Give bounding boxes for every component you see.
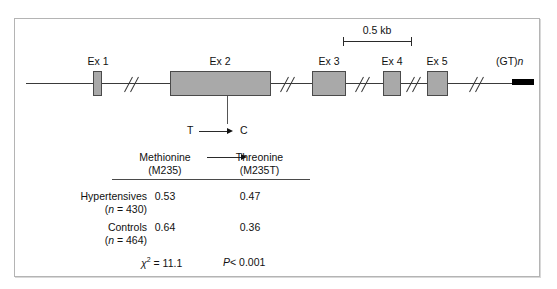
intron-break-icon-3	[354, 74, 372, 94]
mutation-stem-line	[227, 96, 228, 124]
table-row-2-count-post: = 464)	[114, 234, 147, 246]
mutation-arrowhead-icon	[227, 128, 233, 134]
exon-label-3: Ex 3	[304, 55, 354, 67]
gene-backbone-segment-1	[26, 83, 93, 84]
exon-box-1	[93, 71, 102, 96]
mutation-to-base: C	[240, 124, 248, 136]
mutation-from-base: T	[187, 124, 193, 136]
exon-label-4: Ex 4	[367, 55, 417, 67]
table-header-col1-line2: (M235)	[128, 164, 202, 176]
table-row-1-count-post: = 430)	[114, 203, 147, 215]
exon-box-4	[383, 71, 401, 96]
p-value-stat: P< 0.001	[223, 256, 265, 268]
gt-repeat-bar	[512, 79, 534, 85]
table-row-1-value-2: 0.47	[219, 190, 281, 202]
chi-value: = 11.1	[151, 257, 183, 269]
table-row-2-value-2: 0.36	[219, 221, 281, 233]
table-row-1-label: Hypertensives	[45, 190, 147, 202]
table-header-col2-line1: Threonine	[212, 151, 307, 163]
intron-break-icon-5	[468, 74, 486, 94]
gt-repeat-label-main: (GT)	[496, 55, 518, 67]
mutation-arrow-line	[199, 131, 228, 132]
table-header-rule	[112, 179, 310, 180]
exon-label-5: Ex 5	[412, 55, 462, 67]
intron-break-icon-4	[405, 74, 423, 94]
table-row-1-count: (n = 430)	[45, 203, 147, 215]
scale-bar-cap-right	[411, 37, 412, 46]
table-row-2-label: Controls	[45, 221, 147, 233]
table-header-col1-line1: Methionine	[128, 151, 202, 163]
p-value: < 0.001	[230, 256, 265, 268]
chi-square-stat: χ2 = 11.1	[141, 256, 182, 269]
p-symbol: P	[223, 256, 230, 268]
scale-bar-cap-left	[343, 37, 344, 46]
exon-box-5	[427, 71, 448, 96]
exon-label-1: Ex 1	[73, 55, 123, 67]
exon-box-3	[312, 71, 346, 96]
table-row-2-value-1: 0.64	[134, 221, 196, 233]
table-row-1-value-1: 0.53	[134, 190, 196, 202]
gt-repeat-label-italic: n	[518, 55, 524, 67]
table-row-2-count: (n = 464)	[45, 234, 147, 246]
table-header-col2-line2: (M235T)	[212, 164, 307, 176]
figure-root: 0.5 kb Ex 1 Ex 2 Ex 3 Ex 4 Ex 5 (GT)n T …	[0, 0, 557, 289]
gt-repeat-label: (GT)n	[496, 55, 523, 67]
exon-label-2: Ex 2	[195, 55, 245, 67]
scale-bar-line	[343, 41, 412, 42]
scale-bar-label: 0.5 kb	[342, 24, 412, 36]
exon-box-2	[170, 71, 271, 96]
intron-break-icon-2	[279, 74, 297, 94]
intron-break-icon-1	[123, 74, 141, 94]
